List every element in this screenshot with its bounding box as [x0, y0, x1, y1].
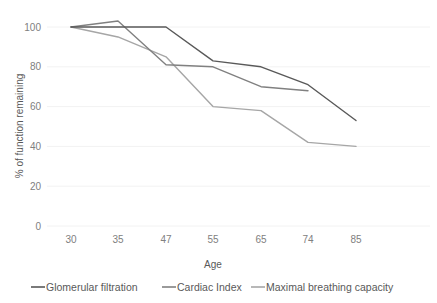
y-tick-label: 20 — [30, 181, 42, 192]
legend-item-maximal-breathing-capacity[interactable]: Maximal breathing capacity — [251, 281, 394, 293]
series-line-cardiac-index — [71, 21, 308, 91]
legend-item-cardiac-index[interactable]: Cardiac Index — [162, 281, 243, 293]
series-line-maximal-breathing-capacity — [71, 27, 356, 146]
y-tick-label: 40 — [30, 141, 42, 152]
legend-label: Cardiac Index — [177, 281, 243, 293]
y-tick-label: 80 — [30, 61, 42, 72]
x-tick-label: 30 — [65, 234, 77, 245]
gridlines — [47, 27, 430, 226]
line-chart: 100 80 60 40 20 0 % of function remainin… — [0, 0, 437, 303]
legend-label: Maximal breathing capacity — [266, 281, 394, 293]
x-tick-label: 55 — [207, 234, 219, 245]
x-tick-label: 35 — [112, 234, 124, 245]
x-tick-label: 74 — [302, 234, 314, 245]
x-tick-label: 85 — [350, 234, 362, 245]
y-axis-ticks: 100 80 60 40 20 0 — [24, 22, 41, 232]
y-tick-label: 0 — [35, 221, 41, 232]
y-axis-title: % of function remaining — [14, 74, 25, 179]
x-axis-ticks: 30 35 47 55 65 74 85 — [65, 234, 362, 245]
x-axis-title: Age — [204, 259, 222, 270]
chart-container: 100 80 60 40 20 0 % of function remainin… — [0, 0, 437, 303]
y-tick-label: 100 — [24, 22, 41, 33]
legend-label: Glomerular filtration — [46, 281, 138, 293]
legend-item-glomerular-filtration[interactable]: Glomerular filtration — [31, 281, 138, 293]
chart-legend: Glomerular filtration Cardiac Index Maxi… — [31, 281, 394, 293]
x-tick-label: 47 — [160, 234, 172, 245]
y-tick-label: 60 — [30, 101, 42, 112]
x-tick-label: 65 — [255, 234, 267, 245]
